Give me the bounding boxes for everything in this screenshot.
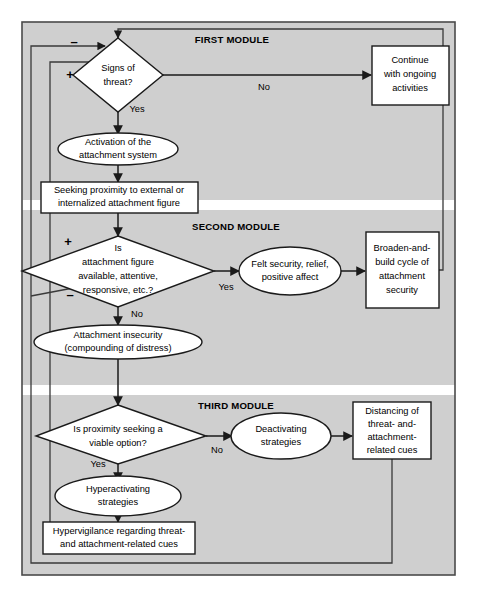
node-viable-line1: Is proximity seeking a [73, 424, 163, 434]
label-available-yes: Yes [218, 282, 234, 292]
node-felt-line1: Felt security, relief, [251, 259, 328, 269]
node-hyperactivating-line1: Hyperactivating [86, 484, 150, 494]
node-broaden-line1: Broaden-and- [374, 243, 431, 253]
node-available-line2: attachment figure [82, 257, 154, 267]
node-viable-line2: viable option? [89, 438, 146, 448]
node-continue-line2: with ongoing [383, 69, 436, 79]
figure-canvas: – + + – No Yes Yes No No [0, 0, 477, 602]
module-label-first: FIRST MODULE [195, 34, 270, 45]
label-available-no: No [131, 309, 143, 319]
label-plus-second: + [64, 234, 72, 249]
module-label-third: THIRD MODULE [198, 400, 274, 411]
node-distancing-line2: threat- and- [368, 419, 416, 429]
node-insecurity-line1: Attachment insecurity [74, 330, 163, 340]
label-minus-top: – [70, 34, 77, 49]
node-hypervigilance[interactable]: Hypervigilance regarding threat- and att… [43, 522, 195, 554]
node-continue-line3: activities [392, 83, 428, 93]
node-distancing[interactable]: Distancing of threat- and- attachment- r… [353, 402, 431, 459]
node-available-line3: available, attentive, [78, 271, 158, 281]
node-deactivating[interactable]: Deactivating strategies [231, 413, 331, 459]
label-threat-yes: Yes [129, 104, 145, 114]
node-signs-of-threat-line1: Signs of [101, 63, 135, 73]
node-deactivating-line1: Deactivating [255, 424, 306, 434]
node-deactivating-line2: strategies [261, 437, 302, 447]
node-distancing-line4: related cues [367, 445, 418, 455]
label-threat-no: No [258, 82, 270, 92]
node-hypervigilance-line2: and attachment-related cues [60, 539, 178, 549]
node-broaden-line3: attachment [379, 271, 425, 281]
node-continue-activities[interactable]: Continue with ongoing activities [372, 46, 449, 105]
node-hyperactivating-line2: strategies [98, 497, 139, 507]
node-broaden-line4: security [386, 285, 418, 295]
node-seeking-proximity[interactable]: Seeking proximity to external or interna… [41, 182, 198, 213]
flowchart-svg: – + + – No Yes Yes No No [0, 0, 477, 602]
node-available-line4: responsive, etc.? [83, 285, 153, 295]
node-activation-line2: attachment system [79, 150, 157, 160]
node-activation[interactable]: Activation of the attachment system [58, 133, 178, 165]
node-attachment-insecurity[interactable]: Attachment insecurity (compounding of di… [34, 325, 202, 359]
node-available-line1: Is [114, 243, 122, 253]
node-distancing-line1: Distancing of [365, 406, 419, 416]
label-viable-yes: Yes [90, 459, 106, 469]
node-distancing-line3: attachment- [367, 432, 416, 442]
node-broaden-build[interactable]: Broaden-and- build cycle of attachment s… [366, 232, 439, 308]
node-felt-security[interactable]: Felt security, relief, positive affect [239, 247, 341, 295]
node-broaden-line2: build cycle of [375, 257, 429, 267]
node-continue-line1: Continue [391, 55, 428, 65]
node-hyperactivating[interactable]: Hyperactivating strategies [55, 476, 181, 516]
band-gap-2 [22, 385, 455, 395]
node-felt-line2: positive affect [262, 272, 319, 282]
node-seeking-line2: internalized attachment figure [58, 198, 180, 208]
node-signs-of-threat-line2: threat? [104, 77, 133, 87]
node-hypervigilance-line1: Hypervigilance regarding threat- [53, 526, 185, 536]
module-label-second: SECOND MODULE [192, 221, 280, 232]
node-seeking-line1: Seeking proximity to external or [54, 185, 184, 195]
node-insecurity-line2: (compounding of distress) [65, 343, 172, 353]
node-activation-line1: Activation of the [85, 137, 151, 147]
label-viable-no: No [211, 445, 223, 455]
